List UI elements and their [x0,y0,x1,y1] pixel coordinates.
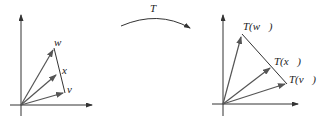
right-plot: T(w⃗) T(x⃗) T(v⃗) [212,15,316,116]
label-x: x⃗ [61,64,75,76]
linear-transformation-diagram: w⃗ x⃗ v⃗ T T(w⃗) T(x⃗) T(v⃗) [0,0,321,122]
map-label: T [150,2,157,14]
label-w: w⃗ [54,36,70,48]
vector-Tv [223,84,285,104]
map-arrow [121,18,190,28]
label-Tx: T(x⃗) [274,55,301,68]
vector-Tw [223,37,241,104]
label-Tw: T(w⃗) [243,20,273,33]
transformation-map: T [121,2,190,28]
label-v: v⃗ [67,83,80,95]
vector-Tx [223,68,270,104]
left-plot: w⃗ x⃗ v⃗ [10,15,92,116]
label-Tv: T(v⃗) [289,73,316,86]
